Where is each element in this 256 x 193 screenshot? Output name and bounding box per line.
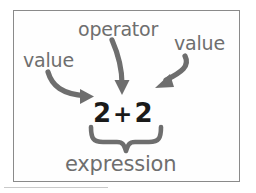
expression-text: 2+2 — [93, 98, 153, 128]
label-expression: expression — [65, 152, 176, 176]
label-value-right: value — [174, 32, 225, 54]
label-value-left: value — [23, 49, 74, 71]
expression-operator-symbol: + — [112, 101, 134, 127]
label-operator: operator — [78, 18, 158, 40]
expression-right-operand: 2 — [134, 98, 153, 128]
expression-left-operand: 2 — [93, 98, 112, 128]
scan-artifact-line — [4, 187, 108, 188]
expression-diagram: value operator value expression 2+2 — [0, 0, 256, 193]
